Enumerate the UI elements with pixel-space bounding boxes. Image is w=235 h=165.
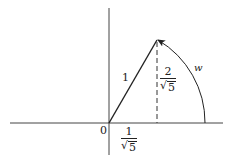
sqrt-icon: √ — [160, 80, 167, 91]
vector-length-label: 1 — [122, 72, 129, 83]
unit-vector — [109, 40, 157, 123]
sqrt-icon: √ — [121, 140, 128, 151]
y-component-radicand: 5 — [167, 81, 176, 93]
x-component-numerator: 1 — [126, 126, 133, 138]
diagram-canvas — [0, 0, 235, 165]
x-component-denominator: √ 5 — [121, 139, 137, 153]
y-component-fraction: 2 √ 5 — [160, 66, 176, 93]
x-component-radicand: 5 — [128, 141, 137, 153]
x-component-fraction: 1 √ 5 — [121, 126, 137, 153]
y-component-denominator: √ 5 — [160, 79, 176, 93]
origin-label: 0 — [100, 125, 107, 136]
y-component-numerator: 2 — [165, 66, 172, 78]
arc-label-w: w — [194, 63, 203, 73]
